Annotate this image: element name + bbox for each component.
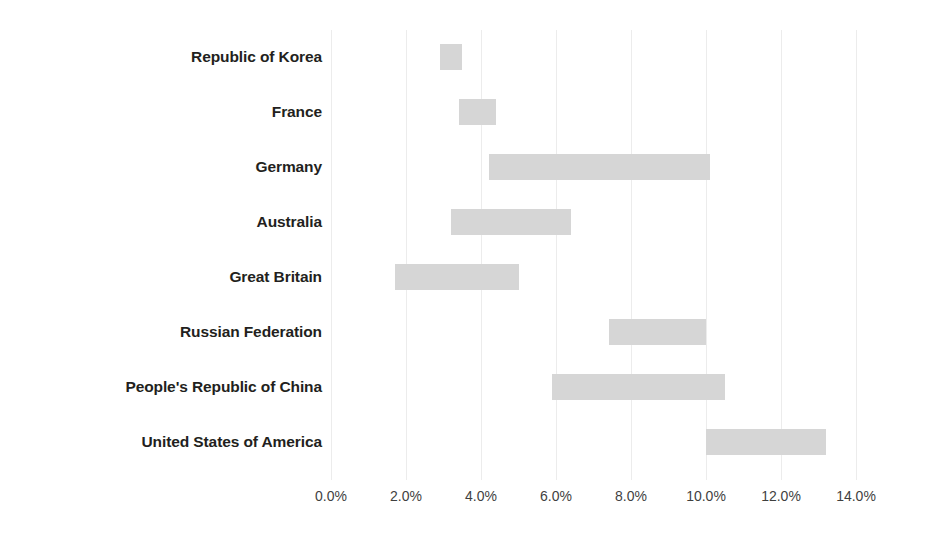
gridline (481, 30, 482, 480)
gridline (631, 30, 632, 480)
gridline (781, 30, 782, 480)
bar[interactable] (395, 264, 519, 290)
category-label: United States of America (0, 429, 322, 455)
gridline (706, 30, 707, 480)
x-tick-label: 6.0% (540, 487, 572, 505)
bar[interactable] (609, 319, 707, 345)
category-label: Russian Federation (0, 319, 322, 345)
x-tick-label: 14.0% (836, 487, 876, 505)
category-label: Germany (0, 154, 322, 180)
bar-chart: Republic of KoreaFranceGermanyAustraliaG… (0, 0, 928, 543)
x-tick-label: 0.0% (315, 487, 347, 505)
category-label: France (0, 99, 322, 125)
bar[interactable] (459, 99, 497, 125)
category-label: People's Republic of China (0, 374, 322, 400)
gridline (856, 30, 857, 480)
category-label: Great Britain (0, 264, 322, 290)
bar[interactable] (451, 209, 571, 235)
plot-area (331, 30, 856, 480)
x-tick-label: 8.0% (615, 487, 647, 505)
category-label: Australia (0, 209, 322, 235)
category-label: Republic of Korea (0, 44, 322, 70)
x-tick-label: 4.0% (465, 487, 497, 505)
category-axis: Republic of KoreaFranceGermanyAustraliaG… (0, 30, 322, 480)
x-tick-label: 12.0% (761, 487, 801, 505)
bar[interactable] (440, 44, 463, 70)
x-tick-label: 2.0% (390, 487, 422, 505)
x-tick-label: 10.0% (686, 487, 726, 505)
gridline (331, 30, 332, 480)
gridline (556, 30, 557, 480)
x-axis: 0.0%2.0%4.0%6.0%8.0%10.0%12.0%14.0% (0, 487, 928, 509)
bar[interactable] (489, 154, 710, 180)
bar[interactable] (552, 374, 725, 400)
bar[interactable] (706, 429, 826, 455)
gridline (406, 30, 407, 480)
